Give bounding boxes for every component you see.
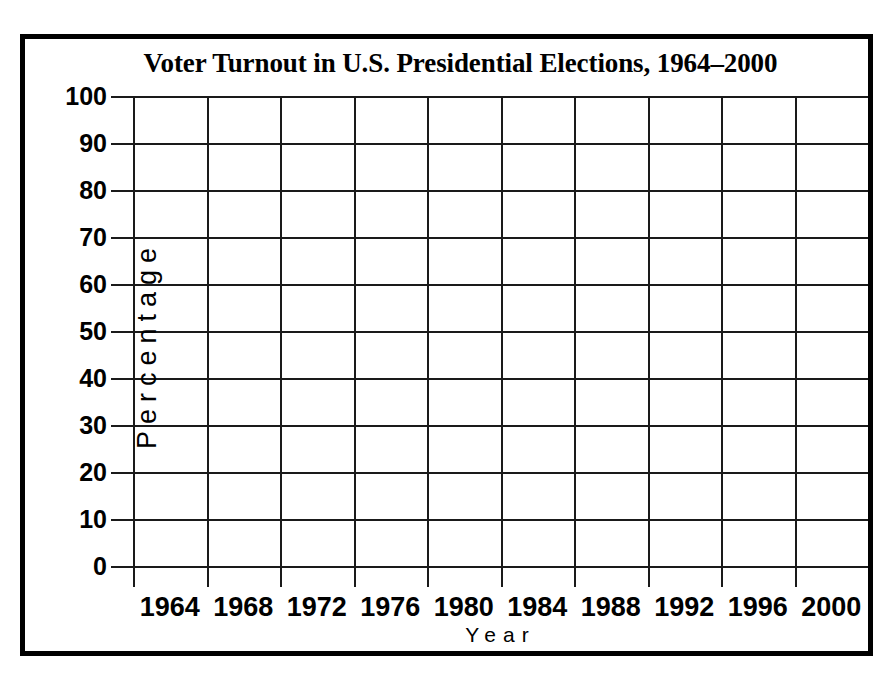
x-axis-tick-label: 1984	[507, 592, 567, 623]
x-axis-tick-mark	[648, 566, 650, 587]
y-axis-tick-mark	[111, 566, 133, 568]
y-axis-tick-label: 30	[79, 411, 107, 440]
x-axis-tick-label: 1972	[287, 592, 347, 623]
y-axis-tick-mark	[111, 331, 133, 333]
gridline-vertical	[280, 96, 282, 566]
x-axis-tick-mark	[207, 566, 209, 587]
x-axis-tick-label: 1992	[654, 592, 714, 623]
y-axis-tick-label: 0	[93, 552, 107, 581]
y-axis-tick-mark	[111, 284, 133, 286]
y-axis-tick-label: 50	[79, 317, 107, 346]
x-axis-tick-mark	[354, 566, 356, 587]
y-axis-tick-label: 20	[79, 458, 107, 487]
plot-area: 1009080706050403020100196419681972197619…	[133, 96, 868, 566]
gridline-vertical	[795, 96, 797, 566]
gridline-vertical	[648, 96, 650, 566]
x-axis-tick-mark	[721, 566, 723, 587]
chart-title: Voter Turnout in U.S. Presidential Elect…	[25, 48, 868, 79]
gridline-vertical	[207, 96, 209, 566]
y-axis-tick-label: 10	[79, 505, 107, 534]
y-axis-tick-mark	[111, 472, 133, 474]
x-axis-tick-label: 1976	[360, 592, 420, 623]
x-axis-tick-label: 1996	[728, 592, 788, 623]
y-axis-tick-label: 60	[79, 270, 107, 299]
x-axis-tick-mark	[795, 566, 797, 587]
y-axis-tick-mark	[111, 237, 133, 239]
x-axis-title: Year	[133, 623, 868, 647]
gridline-vertical	[574, 96, 576, 566]
x-axis-tick-label: 1980	[434, 592, 494, 623]
chart-figure-frame: Voter Turnout in U.S. Presidential Elect…	[20, 34, 873, 656]
gridline-vertical	[721, 96, 723, 566]
y-axis-tick-mark	[111, 425, 133, 427]
gridline-vertical	[354, 96, 356, 566]
x-axis-tick-mark	[427, 566, 429, 587]
y-axis-tick-label: 70	[79, 223, 107, 252]
y-axis-tick-label: 90	[79, 129, 107, 158]
y-axis-tick-mark	[111, 519, 133, 521]
x-axis-tick-label: 1964	[140, 592, 200, 623]
gridline-vertical	[427, 96, 429, 566]
y-axis-tick-mark	[111, 190, 133, 192]
x-axis-tick-mark	[133, 566, 135, 587]
x-axis-tick-mark	[574, 566, 576, 587]
x-axis-tick-mark	[280, 566, 282, 587]
gridline-vertical	[501, 96, 503, 566]
x-axis-tick-label: 1968	[213, 592, 273, 623]
y-axis-tick-label: 80	[79, 176, 107, 205]
y-axis-tick-mark	[111, 96, 133, 98]
y-axis-title: Percentage	[132, 241, 163, 449]
x-axis-tick-mark	[501, 566, 503, 587]
x-axis-tick-label: 2000	[801, 592, 861, 623]
x-axis-tick-label: 1988	[581, 592, 641, 623]
y-axis-tick-mark	[111, 378, 133, 380]
y-axis-tick-label: 40	[79, 364, 107, 393]
y-axis-tick-mark	[111, 143, 133, 145]
y-axis-tick-label: 100	[65, 82, 107, 111]
